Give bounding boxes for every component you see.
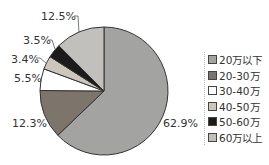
legend-swatch — [208, 102, 217, 111]
legend-item-40-50: 40-50万 — [208, 99, 269, 115]
legend-swatch — [208, 86, 217, 95]
slice-label-60-plus: 12.5% — [41, 11, 76, 22]
legend-item-50-60: 50-60万 — [208, 114, 269, 130]
legend-item-30-40: 30-40万 — [208, 83, 269, 99]
slice-label-50-60: 3.5% — [23, 35, 51, 46]
legend-swatch — [208, 117, 217, 126]
legend-swatch — [208, 55, 217, 64]
legend-swatch — [208, 133, 217, 142]
slice-label-40-50: 3.4% — [11, 54, 39, 65]
legend-item-60-plus: 60万以上 — [208, 130, 269, 146]
legend-item-20-30: 20-30万 — [208, 68, 269, 84]
chart-legend: 20万以下 20-30万 30-40万 40-50万 50-60万 60万以上 — [204, 52, 269, 145]
legend-item-below-20: 20万以下 — [208, 52, 269, 68]
slice-label-20-30: 12.3% — [12, 118, 47, 129]
slice-label-30-40: 5.5% — [14, 73, 42, 84]
slice-label-below-20: 62.9% — [163, 118, 198, 129]
legend-swatch — [208, 71, 217, 80]
